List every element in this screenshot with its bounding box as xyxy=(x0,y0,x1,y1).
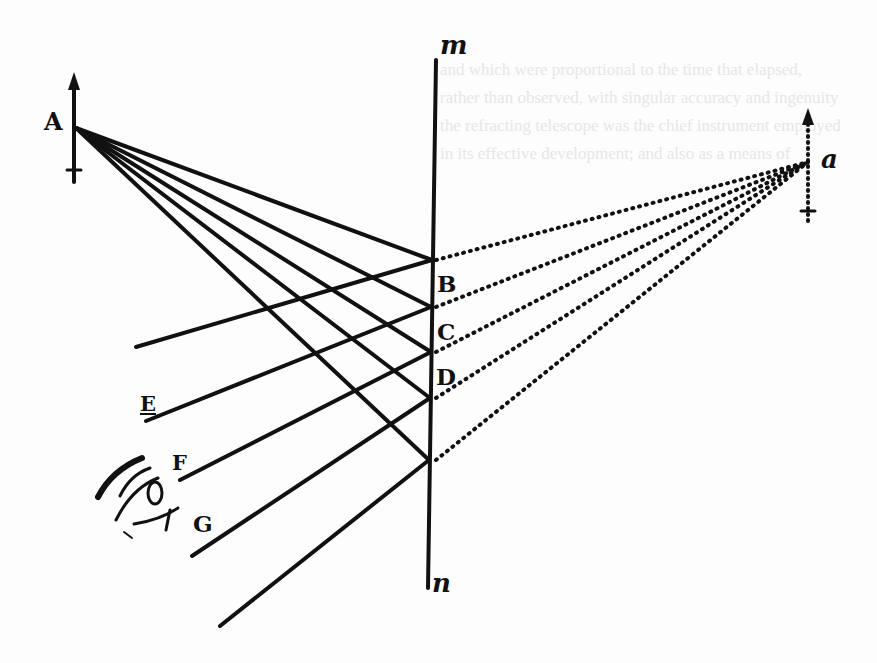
label-point-D: D xyxy=(436,365,456,388)
reflected-rays xyxy=(136,260,432,626)
eye-icon xyxy=(98,458,178,538)
label-point-B: B xyxy=(437,272,456,295)
mirror-line xyxy=(428,60,436,588)
label-ray-E: E xyxy=(140,393,156,414)
virtual-rays xyxy=(436,162,808,460)
label-mirror-m: m xyxy=(440,32,468,58)
image-arrow-head xyxy=(802,108,814,125)
label-object-A: A xyxy=(44,110,63,134)
optics-diagram: and which were proportional to the time … xyxy=(0,0,877,663)
label-point-C: C xyxy=(437,320,455,343)
label-ray-F: F xyxy=(172,452,187,473)
label-mirror-n: n xyxy=(432,570,451,596)
label-ray-G: G xyxy=(193,512,213,535)
incident-rays xyxy=(76,128,432,460)
label-image-a: a xyxy=(821,146,838,172)
object-arrow-head xyxy=(68,72,80,90)
